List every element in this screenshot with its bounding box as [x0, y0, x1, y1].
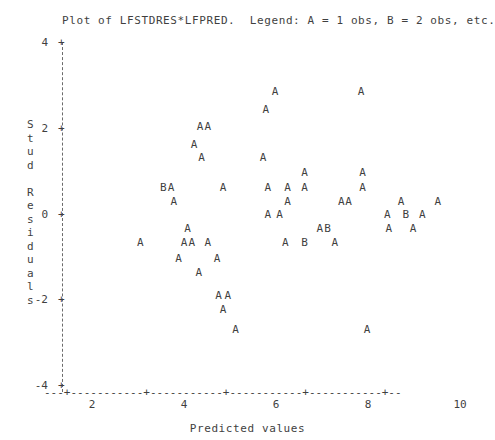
- data-point-marker: A: [168, 181, 175, 192]
- data-point-marker: A: [264, 181, 271, 192]
- data-point-marker: A: [195, 266, 202, 277]
- y-axis-label-char: u: [27, 253, 34, 267]
- data-point-marker: A: [359, 181, 366, 192]
- sas-plot-canvas: Plot of LFSTDRES*LFPRED. Legend: A = 1 o…: [0, 0, 495, 440]
- x-axis-line: ---+-----------+-----------+-----------+…: [44, 387, 472, 398]
- data-point-marker: A: [385, 223, 392, 234]
- x-tick-label: 8: [365, 399, 372, 410]
- data-point-marker: A: [301, 167, 308, 178]
- y-axis-label-char: i: [27, 226, 34, 240]
- data-point-marker: A: [282, 236, 289, 247]
- data-point-marker: A: [435, 195, 442, 206]
- data-point-marker: A: [316, 223, 323, 234]
- data-point-marker: B: [160, 181, 167, 192]
- data-point-marker: A: [284, 181, 291, 192]
- y-tick-mark: +: [58, 209, 65, 220]
- y-tick-label: -2: [18, 294, 48, 305]
- x-tick-label: 2: [89, 399, 96, 410]
- y-tick-mark: +: [58, 37, 65, 48]
- data-point-marker: A: [345, 195, 352, 206]
- data-point-marker: A: [276, 209, 283, 220]
- data-point-marker: A: [260, 151, 267, 162]
- data-point-marker: A: [410, 223, 417, 234]
- data-point-marker: A: [181, 236, 188, 247]
- data-point-marker: A: [301, 181, 308, 192]
- y-tick-mark: +: [58, 294, 65, 305]
- data-point-marker: A: [264, 209, 271, 220]
- data-point-marker: B: [402, 209, 409, 220]
- y-axis-label-char: u: [27, 145, 34, 159]
- data-point-marker: A: [171, 195, 178, 206]
- page-title: Plot of LFSTDRES*LFPRED. Legend: A = 1 o…: [62, 14, 495, 27]
- data-point-marker: A: [359, 167, 366, 178]
- y-tick-mark: +: [58, 123, 65, 134]
- y-tick-label: 2: [18, 123, 48, 134]
- data-point-marker: A: [220, 181, 227, 192]
- data-point-marker: A: [358, 86, 365, 97]
- data-point-marker: A: [205, 236, 212, 247]
- x-tick-label: 6: [273, 399, 280, 410]
- data-point-marker: A: [214, 253, 221, 264]
- data-point-marker: A: [338, 195, 345, 206]
- data-point-marker: B: [324, 223, 331, 234]
- x-tick-label: 4: [181, 399, 188, 410]
- data-point-marker: B: [301, 236, 308, 247]
- data-point-marker: A: [384, 209, 391, 220]
- data-point-marker: A: [184, 223, 191, 234]
- y-axis-label-char: R: [27, 186, 34, 200]
- data-point-marker: A: [205, 120, 212, 131]
- y-axis-label-char: a: [27, 267, 34, 281]
- y-axis-label-char: [27, 172, 34, 186]
- data-point-marker: A: [364, 324, 371, 335]
- y-axis-label-char: d: [27, 159, 34, 173]
- data-point-marker: A: [284, 195, 291, 206]
- data-point-marker: A: [220, 303, 227, 314]
- data-point-marker: A: [189, 236, 196, 247]
- y-axis-label-char: l: [27, 280, 34, 294]
- data-point-marker: A: [215, 289, 222, 300]
- data-point-marker: A: [332, 236, 339, 247]
- data-point-marker: A: [398, 195, 405, 206]
- data-point-marker: A: [191, 139, 198, 150]
- data-point-marker: A: [263, 104, 270, 115]
- data-point-marker: A: [197, 120, 204, 131]
- data-point-marker: A: [198, 151, 205, 162]
- data-point-marker: A: [224, 289, 231, 300]
- data-point-marker: A: [419, 209, 426, 220]
- y-tick-label: 4: [18, 37, 48, 48]
- data-point-marker: A: [272, 86, 279, 97]
- x-axis-label: Predicted values: [0, 422, 495, 435]
- x-tick-label: 10: [453, 399, 466, 410]
- y-axis-label-char: d: [27, 240, 34, 254]
- y-tick-label: 0: [18, 209, 48, 220]
- data-point-marker: A: [232, 324, 239, 335]
- data-point-marker: A: [175, 253, 182, 264]
- data-point-marker: A: [137, 236, 144, 247]
